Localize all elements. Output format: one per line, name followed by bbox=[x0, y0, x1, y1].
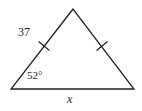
left-side-tick-icon bbox=[39, 42, 50, 51]
geometry-figure: 37 52° x bbox=[0, 0, 142, 111]
base-side-length-label: x bbox=[67, 93, 72, 105]
left-side-length-label: 37 bbox=[18, 26, 30, 38]
base-angle-label: 52° bbox=[27, 70, 42, 81]
